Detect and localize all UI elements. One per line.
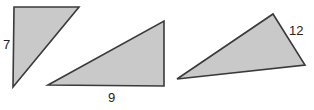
right-triangle-group: 12 <box>177 14 305 79</box>
right-triangle <box>177 14 305 79</box>
middle-triangle <box>48 21 164 86</box>
triangles-diagram: 7 9 12 <box>0 0 314 110</box>
left-triangle-side-label: 7 <box>3 37 10 52</box>
right-triangle-side-label: 12 <box>289 23 303 38</box>
middle-triangle-group: 9 <box>48 21 164 105</box>
middle-triangle-side-label: 9 <box>108 90 115 105</box>
